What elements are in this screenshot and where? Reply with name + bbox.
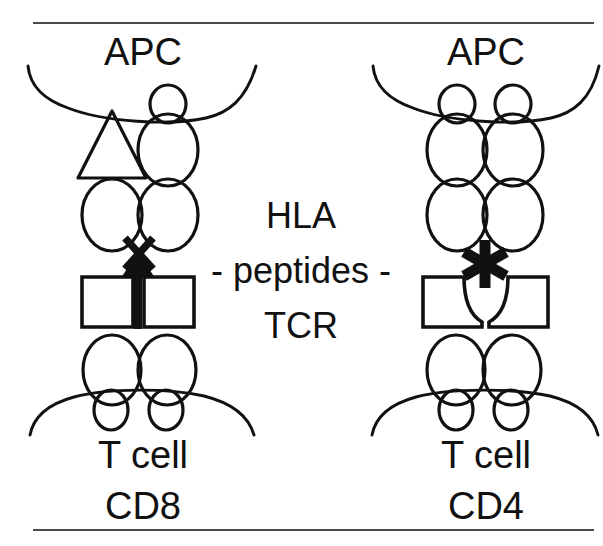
left-apc-label: APC — [104, 31, 182, 73]
right-tcell-stalk-oval-right — [494, 390, 528, 430]
left-tcell-label: T cell — [98, 434, 188, 476]
right-tcr-rect-beta — [489, 277, 548, 327]
center-tcr-label: TCR — [264, 305, 338, 346]
right-mhc-beta-domain-lower — [483, 179, 543, 251]
center-hla-label: HLA — [266, 195, 336, 236]
left-coreceptor-label: CD8 — [105, 485, 181, 527]
right-tcell-label: T cell — [441, 434, 531, 476]
right-tcr-rect-alpha — [423, 277, 482, 327]
right-mhc-alpha-domain-lower — [427, 179, 487, 251]
right-coreceptor-label: CD4 — [448, 485, 524, 527]
right-apc-label: APC — [447, 31, 525, 73]
center-annotations-group: HLA - peptides - TCR — [211, 195, 391, 346]
left-tcell-stalk-oval-left — [94, 390, 128, 430]
left-mhc-domain-lower-left — [82, 179, 142, 251]
left-mhc-alpha-domain-upper — [138, 114, 198, 186]
diagram-canvas: APC T cell CD8 HLA - peptides - TCR — [0, 0, 603, 546]
right-apc-membrane — [373, 66, 599, 122]
diagram-figure: APC T cell CD8 HLA - peptides - TCR — [0, 0, 603, 546]
left-tcr-rect-beta — [144, 277, 194, 327]
left-apc-membrane — [28, 66, 256, 122]
left-tcell-stalk-oval-right — [149, 390, 183, 430]
right-tcell-domain-right — [483, 335, 541, 405]
right-mhc-alpha-domain-upper — [427, 114, 487, 186]
right-mhc-beta-domain-upper — [483, 114, 543, 186]
right-tcell-stalk-oval-left — [439, 390, 473, 430]
left-tcell-membrane — [30, 390, 254, 435]
right-panel-group: APC T cell CD4 — [372, 31, 599, 527]
right-tcell-membrane — [372, 390, 598, 435]
center-peptides-label: - peptides - — [211, 250, 391, 291]
left-tcell-domain-right — [138, 335, 196, 405]
left-tcr-rect-alpha — [82, 277, 133, 327]
